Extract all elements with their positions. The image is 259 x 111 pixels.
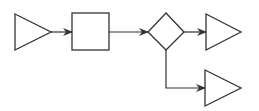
flow-diagram	[0, 0, 259, 111]
decision-diamond-node	[148, 13, 184, 50]
start-triangle-node	[15, 14, 51, 50]
output-bottom-triangle-node	[205, 70, 241, 106]
output-top-triangle-node	[206, 14, 241, 50]
process-box-node	[72, 13, 109, 50]
edge-decision-to-output-bottom	[166, 50, 205, 88]
